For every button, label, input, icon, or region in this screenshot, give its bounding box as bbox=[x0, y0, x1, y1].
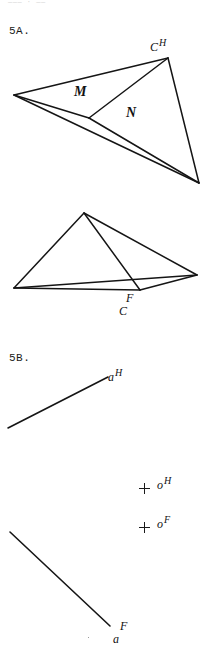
point-label-o-sup-H: H bbox=[163, 475, 171, 486]
line-a-F bbox=[10, 532, 110, 626]
paper-speck bbox=[88, 637, 89, 638]
line-label-a-sup-H: H bbox=[114, 367, 122, 378]
vertex-label-C-bottom: C bbox=[119, 305, 133, 318]
vertex-label-C-F-stacked: F C bbox=[119, 292, 133, 317]
point-label-o-sup-F: F bbox=[163, 514, 170, 525]
edge-interior-to-bottomright bbox=[89, 118, 199, 183]
edge-bottomright-to-left bbox=[14, 95, 199, 183]
vertex-label-C-sup: H bbox=[158, 37, 166, 48]
line-label-a-H: aH bbox=[108, 368, 122, 383]
edge-apex-to-bottomright bbox=[168, 58, 199, 183]
edge2-left-to-interior bbox=[14, 288, 140, 290]
cross-mark-o-H bbox=[139, 483, 150, 494]
edge2-apex-to-right bbox=[84, 213, 197, 275]
figure-page: ——— · —— 5A. 5B. CH M N F bbox=[0, 0, 206, 654]
edge2-left-to-apex bbox=[14, 213, 84, 288]
geometry-drawing bbox=[0, 0, 206, 654]
figure-5b-lines bbox=[8, 377, 110, 626]
region-label-N: N bbox=[126, 105, 136, 121]
point-label-o-F: oF bbox=[157, 515, 170, 530]
line-a-H bbox=[8, 377, 108, 428]
region-label-M: M bbox=[74, 84, 86, 100]
edge-left-to-apex bbox=[14, 58, 168, 95]
line-label-F-top: F bbox=[113, 620, 127, 633]
figure-5a-top-view bbox=[14, 58, 199, 183]
vertex-label-C-H: CH bbox=[150, 38, 166, 53]
edge2-apex-to-interior bbox=[84, 213, 140, 290]
line-label-a-bottom: a bbox=[113, 633, 127, 646]
line-label-a-F-stacked: F a bbox=[113, 620, 127, 645]
point-label-o-H: oH bbox=[157, 476, 171, 491]
figure-5a-bottom-view bbox=[14, 213, 197, 290]
cross-mark-o-F bbox=[139, 522, 150, 533]
vertex-label-C-base: C bbox=[150, 40, 158, 54]
vertex-label-F-top: F bbox=[119, 292, 133, 305]
